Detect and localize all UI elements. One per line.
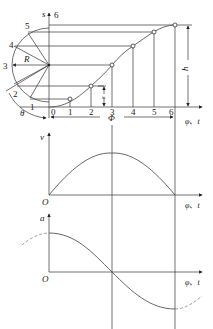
svg-text:1: 1: [30, 102, 35, 112]
svg-text:4: 4: [9, 40, 14, 50]
svg-text:2: 2: [13, 89, 18, 99]
svg-text:5: 5: [152, 107, 157, 117]
h-label: h: [180, 66, 190, 71]
theta-label: θ: [20, 108, 25, 118]
displacement-plot: [6, 13, 202, 329]
svg-text:4: 4: [131, 107, 136, 117]
svg-text:3: 3: [3, 61, 8, 71]
svg-text:φ、t: φ、t: [185, 201, 200, 210]
svg-text:6: 6: [54, 10, 59, 20]
s-dim-label: s: [99, 96, 107, 99]
svg-text:1: 1: [68, 107, 73, 117]
svg-text:6: 6: [169, 107, 174, 117]
svg-text:5: 5: [25, 21, 30, 31]
svg-text:O: O: [42, 197, 49, 207]
svg-text:O: O: [42, 274, 49, 284]
svg-text:3: 3: [110, 107, 115, 117]
velocity-plot: [49, 133, 202, 195]
svg-text:2: 2: [89, 107, 94, 117]
svg-text:φ、t: φ、t: [185, 278, 200, 287]
s-axis-label: s: [42, 9, 46, 19]
svg-text:φ、t: φ、t: [185, 117, 200, 126]
svg-text:v: v: [40, 132, 44, 142]
cycloidal-motion-diagram: s 6 5 4 3 2 1 R θ Φ h s 0 1 2 3 4 5 6 φ、…: [0, 0, 213, 329]
radius-label: R: [23, 54, 30, 64]
svg-text:a: a: [40, 213, 45, 223]
svg-text:0: 0: [51, 107, 56, 117]
